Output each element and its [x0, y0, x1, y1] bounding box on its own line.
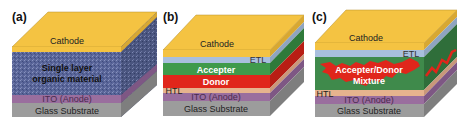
panel-c-tag: (c) [312, 10, 327, 24]
panel-a: (a) Cathode Single layer organic materia… [12, 10, 157, 117]
panel-c: (c) Cathode ETL Accepter/Donor Mixture H… [312, 10, 457, 117]
device-structure-figure: (a) Cathode Single layer organic materia… [0, 0, 466, 123]
glass-label: Glass Substrate [35, 106, 99, 116]
htl-label: HTL [165, 86, 182, 96]
accepter-label: Accepter [197, 65, 236, 75]
panel-a-tag: (a) [12, 10, 27, 24]
mixture-label-line1: Accepter/Donor [335, 65, 403, 75]
cathode-label: Cathode [50, 36, 84, 46]
organic-label-line1: Single layer [42, 63, 93, 73]
etl-label: ETL [250, 55, 267, 65]
panel-b: (b) Cathode ETL Accepter Donor HTL ITO (… [163, 10, 304, 116]
glass-label: Glass Substrate [184, 104, 248, 114]
cathode-label: Cathode [200, 39, 234, 49]
htl-label: HTL [316, 89, 333, 99]
mixture-label-line2: Mixture [353, 76, 385, 86]
cathode-layer [12, 47, 121, 52]
ito-label: ITO (Anode) [344, 95, 393, 105]
panel-b-tag: (b) [163, 10, 178, 24]
organic-label-line2: organic material [32, 74, 102, 84]
cathode-label: Cathode [349, 33, 383, 43]
glass-label: Glass Substrate [337, 106, 401, 116]
ito-label: ITO (Anode) [42, 94, 91, 104]
etl-label: ETL [403, 49, 420, 59]
ito-label: ITO (Anode) [191, 92, 240, 102]
donor-label: Donor [203, 77, 230, 87]
